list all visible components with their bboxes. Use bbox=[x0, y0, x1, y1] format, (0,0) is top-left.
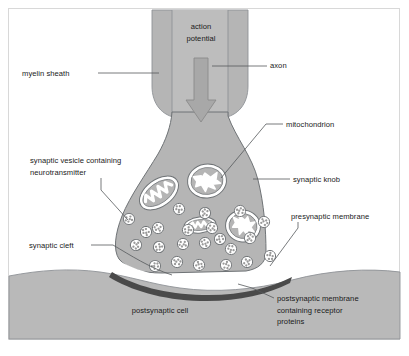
synaptic-vesicle bbox=[123, 213, 134, 224]
synapse-diagram: actionpotentialaxonmyelin sheathmitochon… bbox=[0, 0, 409, 356]
label-synaptic-cleft: synaptic cleft bbox=[29, 241, 74, 250]
synaptic-vesicle bbox=[220, 259, 231, 270]
label-synaptic-vesicle: synaptic vesicle containingneurotransmit… bbox=[30, 156, 121, 177]
label-synaptic-knob: synaptic knob bbox=[293, 175, 340, 184]
label-mitochondrion: mitochondrion bbox=[286, 120, 334, 129]
label-myelin-sheath: myelin sheath bbox=[22, 69, 70, 78]
label-postsynaptic-cell: postsynaptic cell bbox=[132, 306, 189, 315]
synaptic-vesicle bbox=[234, 205, 246, 217]
label-presynaptic-membrane: presynaptic membrane bbox=[291, 212, 369, 221]
diagram-canvas: actionpotentialaxonmyelin sheathmitochon… bbox=[0, 0, 409, 356]
label-axon: axon bbox=[270, 61, 287, 70]
